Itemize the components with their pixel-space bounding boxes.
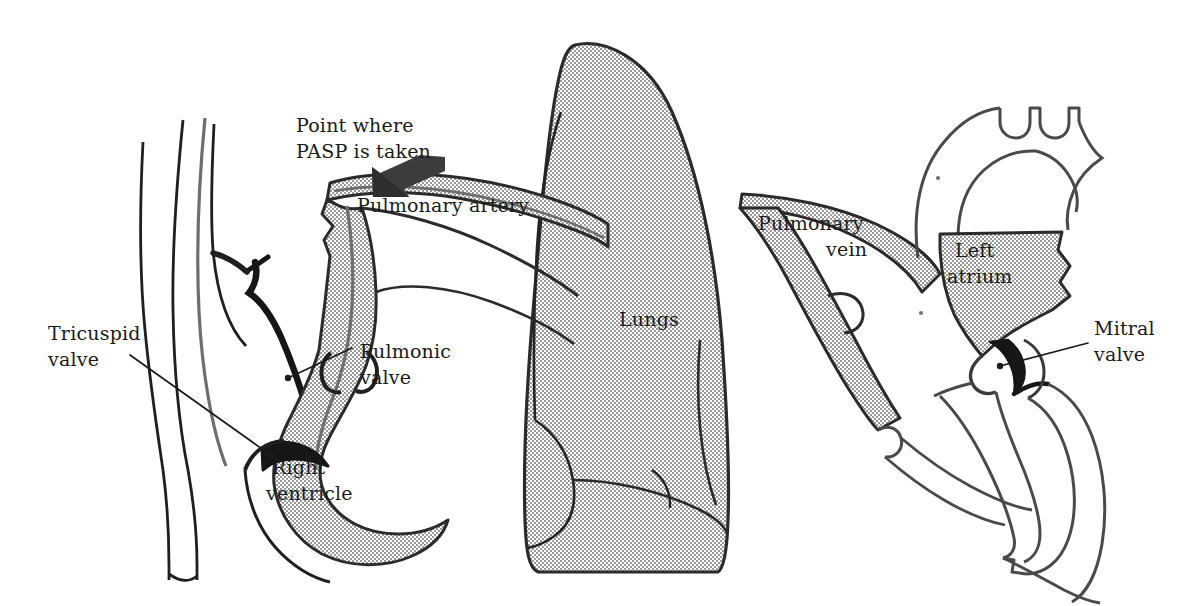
label-pulmonary-artery: Pulmonary artery: [357, 194, 529, 216]
la-label-line2: atrium: [947, 265, 1013, 287]
anatomical-diagram: Point where PASP is taken Pulmonary arte…: [0, 0, 1200, 606]
rv-label-line2: ventricle: [265, 482, 353, 504]
mitral-leader-dot: [997, 363, 1003, 369]
label-point-where-pasp: Point where PASP is taken: [296, 114, 431, 162]
aortic-lumen-dot-2: [919, 311, 923, 315]
rv-label-line1: Right: [272, 456, 326, 478]
vena-cava-medial-wall: [211, 124, 246, 346]
vena-cava-bottom-cap: [169, 574, 197, 580]
vena-cava-lateral-lower: [141, 142, 169, 580]
mitral-valve-cusps: [990, 340, 1025, 394]
aortic-lumen-dot: [936, 176, 940, 180]
left-ventricle-organ: [934, 383, 1105, 603]
tricuspid-leader-line: [130, 355, 272, 456]
aortic-arch-top-scallops: [1000, 108, 1079, 138]
pulmonary-vein-lower-hook: [878, 427, 902, 457]
aortic-arch-descending-outer: [1067, 122, 1102, 230]
lv-septal-wall: [996, 392, 1040, 562]
pasp-label-line2: PASP is taken: [296, 140, 431, 162]
mitral-label-line2: valve: [1093, 343, 1145, 365]
lv-outflow-strand: [934, 383, 972, 396]
mitral-valve: [990, 340, 1048, 398]
mitral-label-line1: Mitral: [1094, 317, 1155, 339]
tricuspid-label-line1: Tricuspid: [48, 322, 141, 344]
pv-label-line1: Pulmonary: [758, 212, 864, 234]
la-label-line1: Left: [955, 239, 994, 261]
pasp-label-line1: Point where: [296, 114, 414, 136]
label-tricuspid-valve: Tricuspid valve: [47, 322, 141, 370]
lv-outer-wall: [1048, 384, 1105, 602]
pulmonary-vein-lower-limb2: [901, 438, 1032, 510]
pulmonic-leader-dot: [285, 375, 291, 381]
diagram-canvas: Point where PASP is taken Pulmonary arte…: [0, 0, 1200, 606]
superior-vena-cava-outline: [173, 120, 197, 580]
pulmonic-label-line2: valve: [359, 366, 411, 388]
label-mitral-valve: Mitral valve: [1093, 317, 1155, 365]
label-pulmonic-valve: Pulmonic valve: [359, 340, 451, 388]
lv-inner-wall: [1026, 398, 1074, 574]
left-atrium-appendage-hook: [970, 356, 996, 394]
tricuspid-label-line2: valve: [47, 348, 99, 370]
pulmonic-label-line1: Pulmonic: [360, 340, 451, 362]
vena-cava-valve-cusp: [213, 253, 247, 272]
pv-label-line2: vein: [825, 238, 867, 260]
label-lungs: Lungs: [619, 308, 679, 330]
